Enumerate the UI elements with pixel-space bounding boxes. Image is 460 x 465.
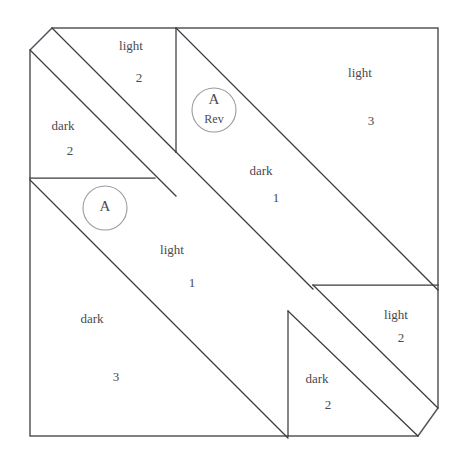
piece-number-light-1-center: 1 bbox=[189, 275, 196, 290]
template-a-rev-sub: Rev bbox=[204, 112, 223, 126]
piece-label-light-2-right: light bbox=[384, 307, 408, 322]
piece-label-light-2-top: light bbox=[119, 38, 143, 53]
seam-dark1-lower-diagonal bbox=[176, 152, 313, 289]
piece-label-dark-2-left: dark bbox=[51, 118, 75, 133]
template-a-letter: A bbox=[100, 198, 111, 214]
piece-number-dark-2-left: 2 bbox=[67, 143, 74, 158]
piece-number-dark-1-center: 1 bbox=[273, 190, 280, 205]
template-marker-a-rev: A Rev bbox=[192, 88, 236, 132]
piece-label-dark-3-bottom: dark bbox=[80, 311, 104, 326]
seam-light2-right-diagonal bbox=[313, 285, 438, 408]
block-diagram-canvas: light 2 dark 2 light 3 dark 1 light 1 da… bbox=[0, 0, 460, 465]
template-marker-a: A bbox=[83, 186, 127, 230]
piece-number-dark-2-bottom: 2 bbox=[325, 397, 332, 412]
piece-number-light-3-right: 3 bbox=[368, 113, 375, 128]
piece-label-light-1-center: light bbox=[160, 242, 184, 257]
piece-label-light-3-right: light bbox=[348, 65, 372, 80]
quilt-block-diagram: light 2 dark 2 light 3 dark 1 light 1 da… bbox=[0, 0, 460, 465]
piece-number-light-2-right: 2 bbox=[398, 330, 405, 345]
piece-number-light-2-top: 2 bbox=[136, 70, 143, 85]
piece-label-dark-2-bottom: dark bbox=[305, 371, 329, 386]
seam-light1-lower-diagonal bbox=[30, 180, 288, 438]
seam-light3-dark1-diagonal bbox=[176, 28, 438, 290]
template-a-rev-letter: A bbox=[209, 91, 220, 107]
piece-label-dark-1-center: dark bbox=[249, 163, 273, 178]
block-outline bbox=[30, 28, 438, 436]
piece-number-dark-3-bottom: 3 bbox=[113, 369, 120, 384]
